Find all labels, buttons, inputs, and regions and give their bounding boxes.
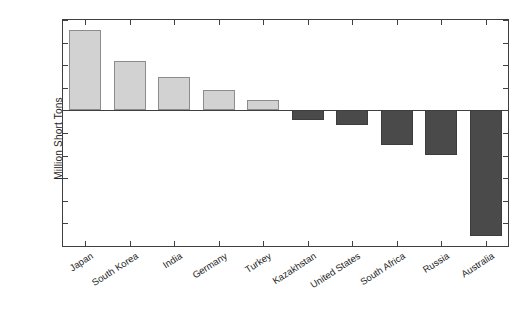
bar-turkey <box>247 100 279 111</box>
x-tick-mark <box>174 241 175 246</box>
y-tick-mark <box>63 246 68 247</box>
y-tick-mark <box>503 133 508 134</box>
x-tick-mark <box>130 241 131 246</box>
bar-united-states <box>336 110 368 125</box>
x-tick-mark <box>130 20 131 25</box>
bar-japan <box>69 30 101 110</box>
x-tick-mark <box>486 241 487 246</box>
bar-south-africa <box>381 110 413 145</box>
x-tick-mark <box>486 20 487 25</box>
x-tick-mark <box>308 20 309 25</box>
y-tick-mark <box>503 65 508 66</box>
y-tick-mark <box>503 223 508 224</box>
bar-kazakhstan <box>292 110 324 120</box>
x-tick-mark <box>219 20 220 25</box>
x-tick-mark <box>352 20 353 25</box>
y-tick-mark <box>63 88 68 89</box>
x-tick-label-south-africa: South Africa <box>358 250 407 287</box>
x-tick-mark <box>441 20 442 25</box>
plot-inner <box>63 20 508 246</box>
y-tick-mark <box>63 20 68 21</box>
y-tick-mark <box>503 43 508 44</box>
x-tick-mark <box>308 241 309 246</box>
x-tick-mark <box>263 241 264 246</box>
y-tick-mark <box>63 178 68 179</box>
y-tick-mark <box>503 20 508 21</box>
y-tick-mark <box>63 110 68 111</box>
x-tick-mark <box>441 241 442 246</box>
x-tick-mark <box>352 241 353 246</box>
bar-germany <box>203 90 235 111</box>
figure-canvas: Million Short Tons 200150100500−50−100−1… <box>0 0 528 324</box>
x-tick-label-india: India <box>161 250 184 270</box>
x-tick-mark <box>219 241 220 246</box>
y-tick-mark <box>503 88 508 89</box>
y-tick-mark <box>503 110 508 111</box>
y-tick-mark <box>63 223 68 224</box>
y-tick-mark <box>503 201 508 202</box>
y-tick-mark <box>63 156 68 157</box>
x-tick-mark <box>85 20 86 25</box>
x-tick-mark <box>397 241 398 246</box>
y-tick-mark <box>503 246 508 247</box>
x-tick-mark <box>263 20 264 25</box>
bar-south-korea <box>114 61 146 111</box>
y-tick-mark <box>63 201 68 202</box>
x-tick-label-russia: Russia <box>421 250 451 275</box>
x-tick-mark <box>85 241 86 246</box>
x-tick-mark <box>397 20 398 25</box>
bar-india <box>158 77 190 111</box>
y-tick-mark <box>63 43 68 44</box>
plot-area <box>62 19 509 247</box>
x-tick-label-germany: Germany <box>190 250 229 281</box>
x-tick-label-south-korea: South Korea <box>89 250 139 288</box>
bar-russia <box>425 110 457 155</box>
y-tick-mark <box>503 178 508 179</box>
y-tick-mark <box>63 65 68 66</box>
x-tick-label-australia: Australia <box>459 250 496 279</box>
bar-australia <box>470 110 502 236</box>
x-tick-label-turkey: Turkey <box>243 250 273 275</box>
y-tick-mark <box>63 133 68 134</box>
x-tick-label-japan: Japan <box>68 250 96 273</box>
x-tick-mark <box>174 20 175 25</box>
y-tick-mark <box>503 156 508 157</box>
